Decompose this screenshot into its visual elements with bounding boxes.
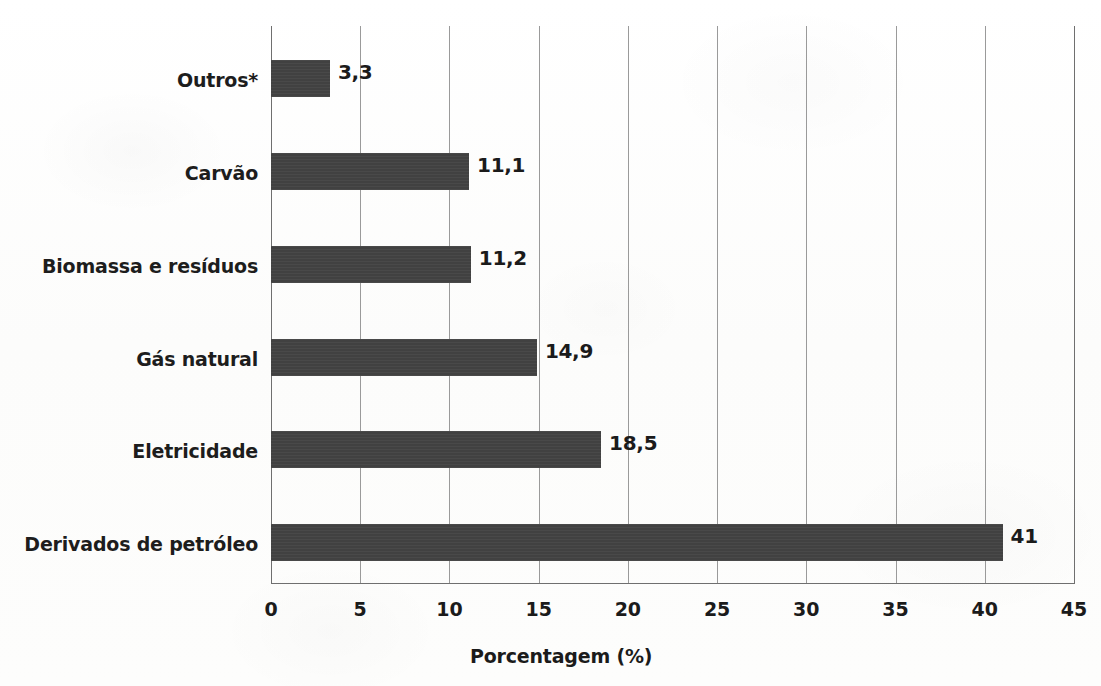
bar-carvao[interactable]: [271, 153, 469, 190]
plot-area: [271, 26, 1074, 583]
xtick-45: 45: [1044, 598, 1101, 620]
gridline-20: [628, 26, 629, 583]
xtick-10: 10: [419, 598, 479, 620]
category-label-gas-natural: Gás natural: [0, 348, 258, 370]
xtick-0: 0: [241, 598, 301, 620]
xtick-35: 35: [866, 598, 926, 620]
value-label-outros: 3,3: [338, 60, 373, 84]
value-label-eletricidade: 18,5: [609, 431, 657, 455]
bar-outros[interactable]: [271, 60, 330, 97]
gridline-15: [539, 26, 540, 583]
gridline-10: [449, 26, 450, 583]
x-axis-title: Porcentagem (%): [470, 645, 652, 667]
xtick-5: 5: [330, 598, 390, 620]
gridline-35: [896, 26, 897, 583]
bar-chart: Outros* Carvão Biomassa e resíduos Gás n…: [0, 0, 1101, 686]
value-label-derivados-de-petroleo: 41: [1011, 524, 1038, 548]
x-axis-line: [271, 583, 1075, 584]
value-label-carvao: 11,1: [477, 153, 525, 177]
bar-biomassa-e-residuos[interactable]: [271, 246, 471, 283]
value-label-gas-natural: 14,9: [545, 339, 593, 363]
xtick-30: 30: [776, 598, 836, 620]
gridline-40: [985, 26, 986, 583]
xtick-20: 20: [598, 598, 658, 620]
gridline-5: [360, 26, 361, 583]
bar-derivados-de-petroleo[interactable]: [271, 524, 1003, 561]
gridline-45: [1074, 26, 1075, 583]
category-label-carvao: Carvão: [0, 162, 258, 184]
gridline-25: [717, 26, 718, 583]
xtick-25: 25: [687, 598, 747, 620]
category-label-eletricidade: Eletricidade: [0, 440, 258, 462]
bar-gas-natural[interactable]: [271, 339, 537, 376]
category-label-biomassa-e-residuos: Biomassa e resíduos: [0, 255, 258, 277]
xtick-40: 40: [955, 598, 1015, 620]
gridline-0: [271, 26, 272, 583]
category-label-derivados-de-petroleo: Derivados de petróleo: [0, 533, 258, 555]
bar-eletricidade[interactable]: [271, 431, 601, 468]
category-label-outros: Outros*: [0, 69, 258, 91]
value-label-biomassa-e-residuos: 11,2: [479, 246, 527, 270]
gridline-30: [806, 26, 807, 583]
xtick-15: 15: [509, 598, 569, 620]
